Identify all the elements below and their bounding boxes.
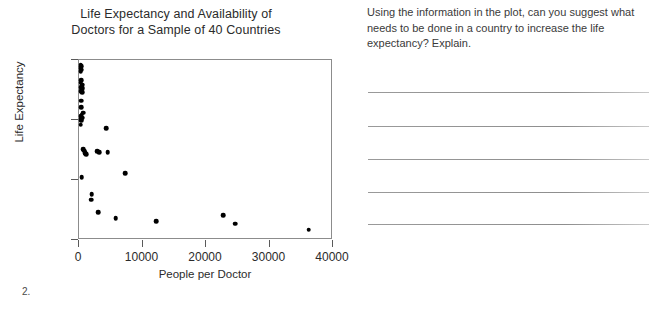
x-tick-mark <box>78 240 79 247</box>
data-point <box>89 198 94 203</box>
x-tick-mark <box>269 240 270 247</box>
data-point <box>123 171 128 176</box>
y-tick-mark <box>71 119 78 120</box>
question-panel: Using the information in the plot, can y… <box>355 0 670 310</box>
x-tick-label: 10000 <box>112 250 172 264</box>
data-point <box>154 219 159 224</box>
x-tick-mark <box>142 240 143 247</box>
plot-area <box>78 59 332 239</box>
data-point <box>78 69 83 74</box>
x-tick-label: 30000 <box>239 250 299 264</box>
answer-line[interactable] <box>368 126 649 127</box>
y-tick-mark <box>71 59 78 60</box>
x-tick-label: 40000 <box>302 250 362 264</box>
data-point <box>84 152 89 157</box>
worksheet-page: Life Expectancy and Availability of Doct… <box>0 0 670 310</box>
data-point <box>96 210 101 215</box>
data-point <box>80 90 85 95</box>
data-point <box>104 126 109 131</box>
question-number: 2. <box>22 286 30 297</box>
data-point <box>79 105 84 110</box>
y-tick-mark <box>71 179 78 180</box>
answer-line[interactable] <box>368 92 649 93</box>
data-point <box>79 123 84 128</box>
data-point <box>114 216 119 221</box>
data-point <box>307 228 312 233</box>
data-point <box>79 99 84 104</box>
chart-title-line-1: Life Expectancy and Availability of <box>26 6 326 22</box>
x-tick-mark <box>205 240 206 247</box>
x-axis-label: People per Doctor <box>78 268 332 280</box>
x-tick-label: 0 <box>48 250 108 264</box>
data-point <box>89 192 94 197</box>
data-point <box>233 222 238 227</box>
x-tick-label: 20000 <box>175 250 235 264</box>
scatter-plot-figure: Life Expectancy and Availability of Doct… <box>0 0 352 310</box>
data-points-layer <box>79 60 331 238</box>
y-axis-label: Life Expectancy <box>13 42 25 162</box>
data-point <box>105 150 110 155</box>
chart-title: Life Expectancy and Availability of Doct… <box>26 6 326 38</box>
data-point <box>221 213 226 218</box>
x-tick-mark <box>332 240 333 247</box>
chart-title-line-2: Doctors for a Sample of 40 Countries <box>26 22 326 38</box>
answer-line[interactable] <box>368 224 649 225</box>
answer-line[interactable] <box>368 159 649 160</box>
y-tick-mark <box>71 239 78 240</box>
data-point <box>80 175 85 180</box>
question-prompt: Using the information in the plot, can y… <box>367 5 657 52</box>
answer-line[interactable] <box>368 192 649 193</box>
data-point <box>97 150 102 155</box>
